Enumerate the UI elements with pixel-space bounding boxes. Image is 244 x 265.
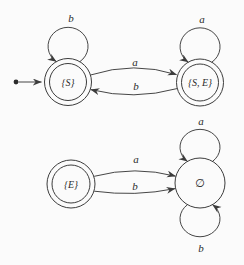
state-empty-label: ∅	[195, 176, 205, 190]
transition-e-to-empty-a-curve	[94, 171, 175, 176]
transition-e-to-empty-a-label: a	[133, 153, 139, 165]
top-automaton: {S} b {S, E} a a b	[14, 12, 224, 106]
state-s-label: {S}	[62, 77, 75, 88]
transition-s-to-se-a-curve	[91, 68, 177, 75]
transition-s-self-b: b	[48, 12, 88, 62]
transition-s-self-b-curve	[48, 27, 88, 61]
transition-empty-self-b-curve	[180, 205, 220, 237]
transition-se-self-a-label: a	[199, 13, 205, 25]
automata-svg: {S} b {S, E} a a b	[0, 0, 244, 265]
transition-s-self-b-label: b	[68, 12, 74, 24]
transition-e-to-empty-a: a	[94, 153, 175, 176]
state-e-label: {E}	[64, 179, 78, 190]
transition-se-self-a: a	[180, 13, 220, 63]
state-empty: ∅	[175, 158, 225, 208]
transition-s-to-se-a: a	[91, 56, 177, 76]
state-e: {E}	[47, 160, 95, 208]
transition-se-to-s-b: b	[91, 80, 177, 95]
transition-se-self-a-curve	[180, 28, 220, 62]
start-dot-icon	[14, 80, 19, 85]
transition-e-to-empty-b: b	[94, 180, 175, 193]
state-se: {S, E}	[177, 59, 224, 106]
transition-empty-self-a-curve	[180, 129, 220, 161]
transition-empty-self-b-label: b	[198, 242, 204, 254]
transition-empty-self-a-label: a	[198, 115, 204, 127]
state-se-label: {S, E}	[188, 77, 212, 88]
automata-figure: {S} b {S, E} a a b	[0, 0, 244, 265]
transition-s-to-se-a-label: a	[132, 56, 138, 68]
bottom-automaton: {E} ∅ a b a b	[47, 115, 225, 254]
transition-empty-self-b: b	[180, 205, 220, 254]
initial-arrow	[14, 80, 42, 85]
transition-se-to-s-b-label: b	[133, 80, 139, 92]
state-s: {S}	[45, 59, 92, 106]
transition-e-to-empty-b-label: b	[132, 180, 138, 192]
transition-empty-self-a: a	[180, 115, 220, 161]
